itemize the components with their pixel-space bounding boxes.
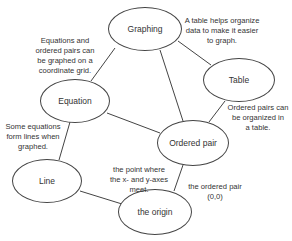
node-the-origin-label: the origin — [138, 207, 173, 217]
node-equation: Equation — [40, 79, 110, 123]
node-ordered-pair: Ordered pair — [157, 120, 229, 166]
node-graphing-label: Graphing — [128, 24, 163, 34]
note-line: Some equations form lines when graphed. — [0, 122, 66, 152]
note-table: A table helps organize data to make it e… — [172, 16, 272, 46]
node-graphing: Graphing — [108, 7, 182, 51]
edge-graphing-ordered-pair — [160, 50, 183, 121]
edge-equation-ordered-pair — [107, 113, 160, 133]
note-ordered-pair: Ordered pairs can be organized in a tabl… — [223, 103, 292, 133]
note-origin-left: the point where the x- and y-axes meet. — [101, 165, 177, 195]
node-ordered-pair-label: Ordered pair — [169, 138, 217, 148]
note-equation: Equations and ordered pairs can be graph… — [32, 36, 98, 76]
node-table-label: Table — [229, 75, 249, 85]
node-equation-label: Equation — [58, 96, 92, 106]
note-origin-right: the ordered pair (0,0) — [180, 182, 250, 202]
node-line: Line — [12, 159, 82, 203]
node-line-label: Line — [39, 176, 55, 186]
node-table: Table — [203, 58, 275, 102]
